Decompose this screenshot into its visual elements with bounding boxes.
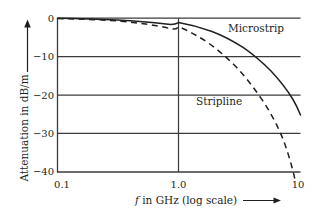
x-axis-title-rest: in GHz (log scale): [139, 194, 237, 206]
series-curve-stripline: [58, 19, 296, 183]
chart-figure: Attenuation in dB/m 0 −10 −20 −30 −40 0.…: [0, 0, 315, 217]
x-axis-title-group: f in GHz (log scale): [134, 194, 281, 206]
attenuation-vs-frequency-chart: Attenuation in dB/m 0 −10 −20 −30 −40 0.…: [0, 0, 315, 217]
y-axis-arrow-icon: [24, 20, 31, 73]
y-tick-label-m30: −30: [33, 128, 54, 139]
y-tick-label-m10: −10: [33, 51, 54, 62]
series-label-stripline: Stripline: [196, 95, 242, 107]
series-label-microstrip: Microstrip: [228, 22, 284, 34]
y-axis-title: Attenuation in dB/m: [18, 74, 30, 182]
x-axis-title: f in GHz (log scale): [134, 194, 237, 206]
y-tick-label-0: 0: [48, 13, 54, 24]
x-tick-label-1p0: 1.0: [171, 179, 187, 190]
y-tick-label-m20: −20: [33, 90, 54, 101]
x-tick-label-10: 10: [292, 179, 305, 190]
y-tick-label-m40: −40: [33, 166, 54, 177]
x-tick-label-0p1: 0.1: [54, 179, 70, 190]
